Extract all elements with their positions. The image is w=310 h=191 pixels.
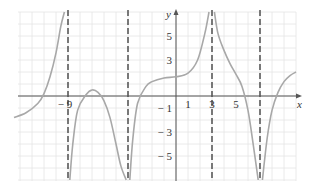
x-tick-label: − 9 — [58, 98, 73, 110]
tick-labels: − 913553− 1− 3− 5xy — [58, 8, 302, 162]
y-axis-label: y — [165, 8, 171, 20]
curve-branch — [70, 90, 126, 180]
x-tick-label: 3 — [209, 98, 215, 110]
y-tick-label: 3 — [167, 54, 173, 66]
x-tick-label: 1 — [185, 98, 191, 110]
x-axis-label: x — [296, 98, 302, 110]
x-tick-label: 5 — [233, 98, 239, 110]
curve-branch — [262, 72, 296, 180]
y-tick-label: − 5 — [158, 150, 173, 162]
y-tick-label: 5 — [167, 30, 173, 42]
y-tick-label: − 3 — [158, 126, 173, 138]
function-graph: − 913553− 1− 3− 5xy — [0, 0, 310, 191]
y-tick-label: − 1 — [158, 102, 172, 114]
